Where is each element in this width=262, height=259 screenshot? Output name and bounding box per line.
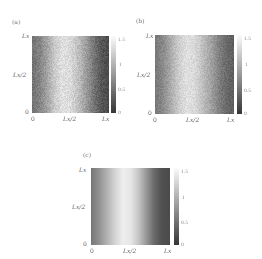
cbar-tick-b-1.5: 1.5 [244,37,251,42]
cbar-tick-b-0.5: 0.5 [244,89,251,94]
y-tick-mid-b: Lx/2 [137,72,150,78]
cbar-tick-a-1: 1 [119,63,122,68]
panel-label-c: (c) [83,151,91,158]
heatmap-b [155,35,234,114]
x-tick-right-b: Lx [227,117,234,123]
y-tick-mid-a: Lx/2 [13,72,26,78]
y-tick-bottom-a: 0 [25,109,29,115]
colorbar-b [237,35,242,114]
cbar-tick-a-1.5: 1.5 [118,38,125,43]
cbar-tick-c-1.5: 1.5 [181,170,188,175]
x-tick-left-a: 0 [31,116,35,122]
panel-label-a: (a) [12,18,20,25]
cbar-tick-c-0: 0 [181,243,184,248]
x-tick-left-b: 0 [153,117,157,123]
panel-label-b: (b) [136,17,145,24]
x-tick-mid-b: Lx/2 [186,117,199,123]
cbar-tick-a-0: 0 [118,111,121,116]
x-tick-right-c: Lx [164,248,171,254]
x-tick-right-a: Lx [102,116,109,122]
colorbar-a [111,36,116,113]
heatmap-a [32,36,109,113]
x-tick-mid-c: Lx/2 [123,248,136,254]
y-tick-bottom-c: 0 [83,241,87,247]
y-tick-top-c: Lx [79,167,86,173]
x-tick-left-c: 0 [90,248,94,254]
cbar-tick-a-0.5: 0.5 [118,88,125,93]
y-tick-top-b: Lx [146,33,153,39]
y-tick-mid-c: Lx/2 [72,204,85,210]
y-tick-top-a: Lx [22,33,29,39]
y-tick-bottom-b: 0 [148,110,152,116]
cbar-tick-c-1: 1 [182,196,185,201]
cbar-tick-b-1: 1 [245,63,248,68]
x-tick-mid-a: Lx/2 [63,116,76,122]
heatmap-c [91,168,170,245]
cbar-tick-c-0.5: 0.5 [181,221,188,226]
colorbar-c [174,168,179,245]
cbar-tick-b-0: 0 [244,112,247,117]
